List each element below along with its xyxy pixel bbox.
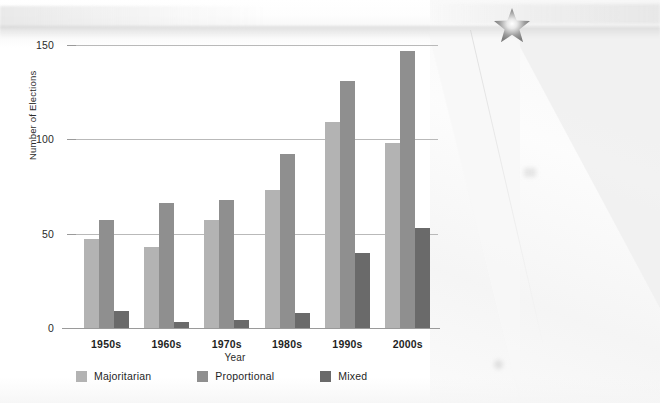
bar-majoritarian-1980s (265, 190, 280, 328)
legend-label: Majoritarian (94, 370, 151, 382)
bar-proportional-1980s (280, 154, 295, 328)
tick-dash-150 (67, 45, 76, 46)
x-tick-label-1970s: 1970s (212, 338, 242, 350)
bar-proportional-2000s (400, 51, 415, 328)
y-tick-label-50: 50 (42, 228, 54, 240)
tick-dash-0 (67, 328, 76, 329)
x-tick-label-1960s: 1960s (151, 338, 181, 350)
screenshot-root: Number of Elections 150 100 50 0 1950s19… (0, 0, 660, 403)
y-tick-label-0: 0 (48, 322, 54, 334)
x-tick-label-1990s: 1990s (332, 338, 362, 350)
y-tick-label-150: 150 (36, 39, 54, 51)
legend-label: Proportional (215, 370, 274, 382)
bar-proportional-1990s (340, 81, 355, 328)
bar-group: 1950s (77, 45, 135, 328)
scan-smudge (494, 360, 503, 369)
bar-majoritarian-1960s (144, 247, 159, 328)
y-axis-title: Number of Elections (27, 71, 38, 160)
bar-mixed-1960s (174, 322, 189, 328)
tick-dash-100 (67, 139, 76, 140)
bar-group: 1980s (258, 45, 316, 328)
legend-swatch-icon (320, 371, 331, 382)
bar-proportional-1950s (99, 220, 114, 328)
y-tick-label-100: 100 (36, 133, 54, 145)
bar-mixed-2000s (415, 228, 430, 328)
bar-mixed-1990s (355, 253, 370, 328)
legend-swatch-icon (76, 371, 87, 382)
plot-area: 150 100 50 0 1950s1960s1970s1980s1990s20… (76, 45, 438, 328)
bar-mixed-1950s (114, 311, 129, 328)
bar-majoritarian-1950s (84, 239, 99, 328)
bar-proportional-1970s (219, 200, 234, 328)
bar-proportional-1960s (159, 203, 174, 328)
bar-mixed-1970s (234, 320, 249, 328)
x-axis-title: Year (0, 352, 470, 363)
bar-group: 1960s (137, 45, 195, 328)
star-burst-icon (492, 6, 532, 46)
x-tick-label-1950s: 1950s (91, 338, 121, 350)
x-axis-line (62, 328, 440, 329)
legend-item-mixed: Mixed (320, 370, 367, 382)
bar-mixed-1980s (295, 313, 310, 328)
scan-smudge (524, 168, 536, 177)
x-tick-label-2000s: 2000s (393, 338, 423, 350)
bar-majoritarian-2000s (385, 143, 400, 328)
legend-label: Mixed (338, 370, 367, 382)
bar-group: 1970s (198, 45, 256, 328)
tick-dash-50 (67, 234, 76, 235)
bar-chart: Number of Elections 150 100 50 0 1950s19… (0, 0, 470, 403)
x-tick-label-1980s: 1980s (272, 338, 302, 350)
bar-group: 2000s (379, 45, 437, 328)
legend-swatch-icon (197, 371, 208, 382)
legend-item-majoritarian: Majoritarian (76, 370, 151, 382)
legend-item-proportional: Proportional (197, 370, 274, 382)
chart-legend: MajoritarianProportionalMixed (76, 370, 367, 382)
bar-groups: 1950s1960s1970s1980s1990s2000s (76, 45, 438, 328)
bar-majoritarian-1990s (325, 122, 340, 328)
bar-majoritarian-1970s (204, 220, 219, 328)
bar-group: 1990s (318, 45, 376, 328)
